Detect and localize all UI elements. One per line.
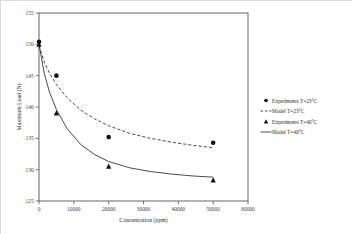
legend-label: Experiments T=40°C <box>272 119 318 125</box>
x-tick-label: 10000 <box>67 206 81 212</box>
legend-label: Experiments T=23°C <box>272 98 318 104</box>
y-tick-label: 140 <box>26 104 34 110</box>
x-tick-label: 30000 <box>137 206 151 212</box>
y-tick-label: 150 <box>26 41 34 47</box>
chart-background <box>1 1 352 234</box>
data-point-circle <box>211 140 216 145</box>
chart-svg: 125 130 135 140 145 150 155 0 10000 <box>1 1 352 234</box>
y-tick-label: 125 <box>26 198 34 204</box>
legend-circle-marker-icon <box>264 99 268 103</box>
x-tick-label: 40000 <box>172 206 186 212</box>
x-tick-label: 0 <box>38 206 41 212</box>
x-tick-label: 50000 <box>206 206 220 212</box>
data-point-circle <box>106 135 111 140</box>
y-tick-label: 130 <box>26 167 34 173</box>
x-tick-label: 60000 <box>241 206 255 212</box>
x-axis-title: Concentration (ppm) <box>119 217 168 224</box>
y-tick-label: 155 <box>26 10 34 16</box>
y-axis-title: Maximum Load (N) <box>16 83 23 130</box>
chart-plot-area: 125 130 135 140 145 150 155 0 10000 <box>1 1 352 234</box>
legend-label: Model T=40°C <box>272 129 305 135</box>
y-tick-label: 145 <box>26 73 34 79</box>
x-tick-label: 20000 <box>102 206 116 212</box>
y-tick-label: 135 <box>26 135 34 141</box>
data-point-circle <box>54 73 59 78</box>
legend-label: Model T=23°C <box>272 108 305 114</box>
legend-entry-experiments-23c: Experiments T=23°C <box>264 98 317 104</box>
figure-container: 125 130 135 140 145 150 155 0 10000 <box>0 0 352 234</box>
